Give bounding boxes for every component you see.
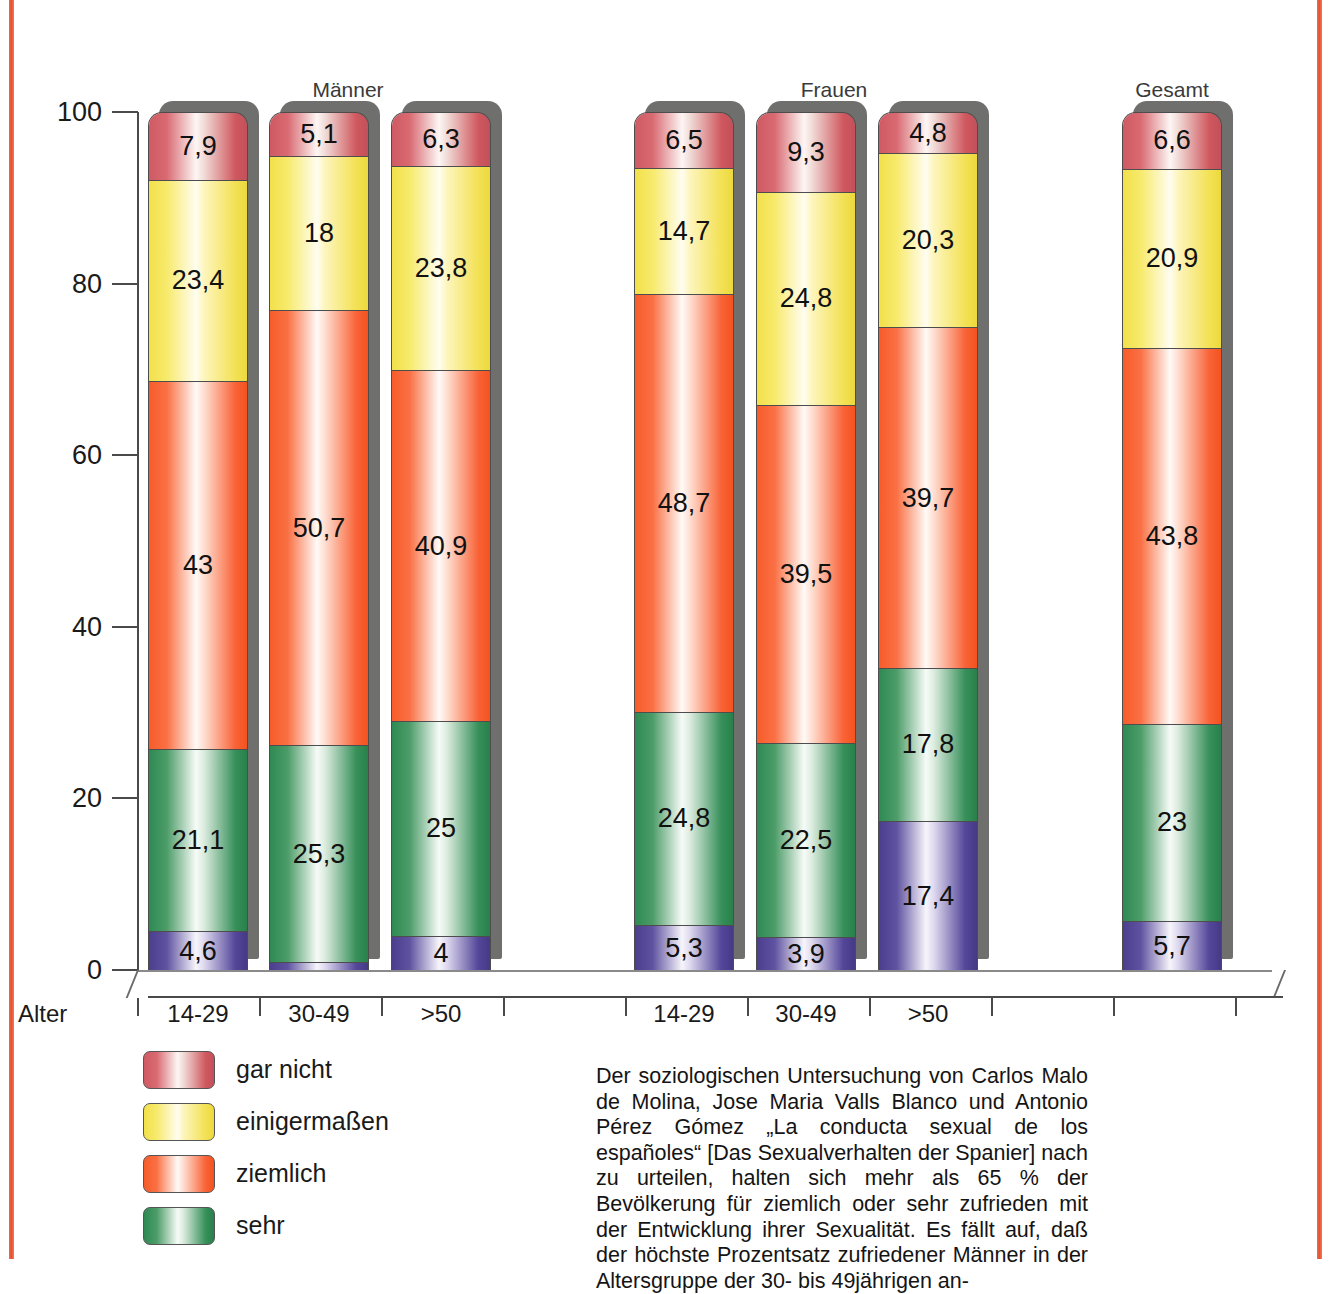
bar-segment-purple[interactable]: 5,7 [1123, 922, 1221, 970]
bar-stack: 9,324,839,522,53,9 [756, 112, 856, 970]
bar-segment-purple[interactable]: 5,3 [635, 926, 733, 970]
bar-segment-purple[interactable]: 4 [392, 937, 490, 970]
legend-swatch-sehr [143, 1207, 215, 1245]
bar-gesamt[interactable]: 6,620,943,8235,7 [1122, 112, 1222, 970]
legend-swatch-ziemlich [143, 1155, 215, 1193]
bar-segment-einigermassen[interactable]: 23,8 [392, 167, 490, 371]
bar-segment-einigermassen[interactable]: 18 [270, 157, 368, 311]
bar-segment-value: 3,9 [787, 939, 825, 970]
bar-männer-30-49[interactable]: 5,11850,725,3 [269, 112, 369, 970]
legend-label: ziemlich [236, 1159, 326, 1188]
bar-segment-ziemlich[interactable]: 39,5 [757, 406, 855, 745]
stacked-bar-chart: 020406080100 MännerFrauenGesamt 7,923,44… [0, 0, 1333, 1010]
bar-segment-garnicht[interactable]: 6,5 [635, 113, 733, 169]
bar-segment-value: 40,9 [415, 531, 468, 562]
bar-segment-ziemlich[interactable]: 39,7 [879, 328, 977, 669]
bar-frauen-30-49[interactable]: 9,324,839,522,53,9 [756, 112, 856, 970]
bar-segment-garnicht[interactable]: 5,1 [270, 113, 368, 157]
bar-segment-einigermassen[interactable]: 20,3 [879, 154, 977, 328]
bar-segment-ziemlich[interactable]: 43 [149, 382, 247, 751]
y-axis-tick-label: 20 [40, 783, 102, 814]
legend-item-garnicht[interactable]: gar nicht [143, 1046, 389, 1093]
y-axis-tick-label: 0 [40, 955, 102, 986]
bar-segment-purple[interactable]: 17,4 [879, 822, 977, 970]
bar-segment-ziemlich[interactable]: 48,7 [635, 295, 733, 713]
bar-segment-sehr[interactable]: 22,5 [757, 744, 855, 937]
bar-segment-ziemlich[interactable]: 43,8 [1123, 349, 1221, 725]
y-axis-tick-mark [112, 283, 138, 285]
bar-segment-value: 43 [183, 550, 213, 581]
bar-frauen->50[interactable]: 4,820,339,717,817,4 [878, 112, 978, 970]
x-axis-tick-mark [1235, 998, 1237, 1016]
group-title-männer: Männer [198, 78, 498, 102]
group-title-frauen: Frauen [684, 78, 984, 102]
bar-segment-value: 14,7 [658, 216, 711, 247]
bar-segment-value: 4 [433, 938, 448, 969]
bar-segment-value: 20,9 [1146, 243, 1199, 274]
group-title-gesamt: Gesamt [1022, 78, 1322, 102]
bar-segment-value: 6,6 [1153, 125, 1191, 156]
bar-segment-value: 50,7 [293, 513, 346, 544]
bar-segment-value: 17,8 [902, 729, 955, 760]
bar-stack: 7,923,44321,14,6 [148, 112, 248, 970]
legend-item-ziemlich[interactable]: ziemlich [143, 1150, 389, 1197]
bar-segment-value: 39,5 [780, 559, 833, 590]
legend-item-einigermassen[interactable]: einigermaßen [143, 1098, 389, 1145]
bar-segment-garnicht[interactable]: 9,3 [757, 113, 855, 193]
bar-segment-value: 23,8 [415, 253, 468, 284]
bar-segment-garnicht[interactable]: 4,8 [879, 113, 977, 154]
legend-label: einigermaßen [236, 1107, 389, 1136]
bar-segment-garnicht[interactable]: 7,9 [149, 113, 247, 181]
bar-segment-sehr[interactable]: 21,1 [149, 750, 247, 931]
bar-segment-garnicht[interactable]: 6,3 [392, 113, 490, 167]
x-axis-tick-mark [625, 998, 627, 1016]
bar-stack: 4,820,339,717,817,4 [878, 112, 978, 970]
chart-legend: gar nichteinigermaßenziemlichsehr [143, 1046, 389, 1254]
bar-segment-einigermassen[interactable]: 24,8 [757, 193, 855, 406]
bar-männer->50[interactable]: 6,323,840,9254 [391, 112, 491, 970]
bar-segment-einigermassen[interactable]: 23,4 [149, 181, 247, 382]
bar-segment-value: 7,9 [179, 131, 217, 162]
bar-segment-ziemlich[interactable]: 40,9 [392, 371, 490, 722]
bar-segment-purple[interactable] [270, 963, 368, 970]
x-axis-tick-mark [747, 998, 749, 1016]
legend-label: sehr [236, 1211, 285, 1240]
bar-segment-sehr[interactable]: 24,8 [635, 713, 733, 926]
bar-segment-sehr[interactable]: 25,3 [270, 746, 368, 963]
bar-segment-ziemlich[interactable]: 50,7 [270, 311, 368, 746]
bar-segment-purple[interactable]: 4,6 [149, 932, 247, 970]
y-axis-tick-mark [112, 969, 138, 971]
x-axis-category-label: 14-29 [148, 1000, 248, 1028]
bar-segment-sehr[interactable]: 17,8 [879, 669, 977, 822]
bar-segment-sehr[interactable]: 23 [1123, 725, 1221, 922]
bar-männer-14-29[interactable]: 7,923,44321,14,6 [148, 112, 248, 970]
x-axis-category-label: 30-49 [269, 1000, 369, 1028]
legend-swatch-garnicht [143, 1051, 215, 1089]
y-axis-tick-label: 60 [40, 440, 102, 471]
bar-segment-value: 24,8 [658, 803, 711, 834]
legend-item-sehr[interactable]: sehr [143, 1202, 389, 1249]
bar-segment-value: 25 [426, 813, 456, 844]
bar-segment-value: 24,8 [780, 283, 833, 314]
bar-frauen-14-29[interactable]: 6,514,748,724,85,3 [634, 112, 734, 970]
x-axis-tick-mark [259, 998, 261, 1016]
legend-swatch-einigermassen [143, 1103, 215, 1141]
x-axis-tick-mark [991, 998, 993, 1016]
bar-segment-garnicht[interactable]: 6,6 [1123, 113, 1221, 170]
bar-segment-purple[interactable]: 3,9 [757, 938, 855, 970]
bar-segment-einigermassen[interactable]: 14,7 [635, 169, 733, 295]
bar-segment-sehr[interactable]: 25 [392, 722, 490, 937]
bar-segment-einigermassen[interactable]: 20,9 [1123, 170, 1221, 349]
bar-segment-value: 17,4 [902, 881, 955, 912]
bar-segment-value: 9,3 [787, 137, 825, 168]
bar-segment-value: 23 [1157, 807, 1187, 838]
y-axis-tick-mark [112, 626, 138, 628]
x-axis-category-label: 30-49 [756, 1000, 856, 1028]
bar-segment-value: 21,1 [172, 825, 225, 856]
bar-segment-value: 39,7 [902, 483, 955, 514]
axis-floor-right-edge [1261, 970, 1286, 998]
axis-floor-left-edge [126, 970, 151, 998]
bar-stack: 6,323,840,9254 [391, 112, 491, 970]
bar-stack: 6,514,748,724,85,3 [634, 112, 734, 970]
